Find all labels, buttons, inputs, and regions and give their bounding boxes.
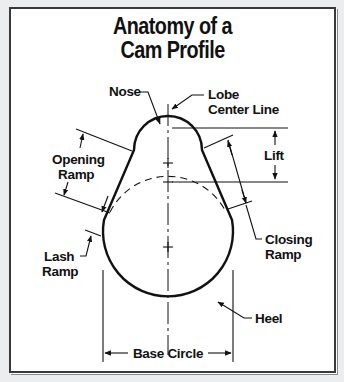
label-lobe-2: Center Line xyxy=(208,102,280,117)
closing-ramp-bottom-extension xyxy=(228,201,252,209)
opening-ramp-arrow-lower xyxy=(102,196,108,212)
label-lift: Lift xyxy=(264,148,285,163)
label-heel: Heel xyxy=(255,311,282,326)
label-closing-ramp-2: Ramp xyxy=(265,247,301,262)
opening-ramp-bottom-extension xyxy=(55,193,110,213)
heel-leader xyxy=(218,302,252,318)
label-opening-ramp-2: Ramp xyxy=(58,167,94,182)
label-lash-ramp-2: Ramp xyxy=(42,264,78,279)
lash-ramp-leader xyxy=(80,236,91,256)
nose-leader xyxy=(139,92,160,124)
closing-ramp-leader xyxy=(246,205,262,239)
opening-ramp-top-extension xyxy=(76,129,132,151)
label-closing-ramp-1: Closing xyxy=(265,232,312,247)
lobe-leader xyxy=(172,95,204,109)
label-lash-ramp-1: Lash xyxy=(44,249,74,264)
label-nose: Nose xyxy=(109,84,142,99)
closing-ramp-arrow-down xyxy=(242,190,246,203)
cam-profile-diagram: Nose Lobe Center Line Lift Opening Ramp … xyxy=(0,0,344,382)
opening-ramp-arrow-up xyxy=(80,134,83,148)
label-opening-ramp-1: Opening xyxy=(52,152,105,167)
lash-ramp-tick xyxy=(85,230,101,236)
opening-ramp-arrow-down xyxy=(64,182,68,195)
label-base-circle: Base Circle xyxy=(133,346,204,361)
label-lobe-1: Lobe xyxy=(208,87,240,102)
closing-ramp-arrow-up xyxy=(228,141,232,155)
